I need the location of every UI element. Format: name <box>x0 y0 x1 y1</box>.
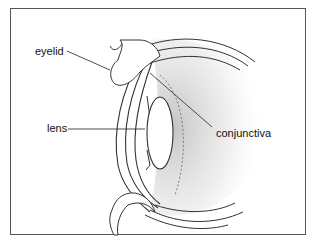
label-lens: lens <box>47 122 67 134</box>
label-eyelid: eyelid <box>35 45 64 57</box>
lower-eyelid <box>110 193 155 235</box>
lens-shape <box>147 97 173 169</box>
label-conjunctiva: conjunctiva <box>216 127 271 139</box>
